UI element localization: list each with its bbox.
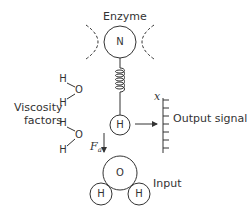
enzyme-sensor-diagram: Enzyme N H O H H O H Viscosity factors H… — [0, 0, 251, 221]
input-label: Input — [153, 178, 181, 189]
force-symbol: F — [90, 140, 98, 153]
enzyme-label: Enzyme — [103, 11, 147, 22]
water1-h-top: H — [59, 74, 67, 84]
viscosity-label: Viscosity — [14, 102, 62, 113]
input-h-right-atom: H — [135, 189, 143, 199]
factors-label: factors — [24, 115, 62, 126]
sensor-h-atom: H — [116, 120, 124, 130]
water2-o: O — [75, 130, 83, 140]
scale-x-label: x — [154, 91, 160, 102]
output-scale-ruler — [163, 98, 169, 153]
water1-o: O — [75, 85, 83, 95]
water2-h-bottom: H — [59, 145, 67, 155]
force-subscript: a — [98, 146, 102, 154]
force-label: Fa — [90, 141, 102, 154]
enzyme-left-arc — [86, 25, 98, 59]
input-h-left-atom: H — [97, 189, 105, 199]
enzyme-n-atom: N — [116, 37, 123, 47]
output-signal-label: Output signal — [173, 113, 247, 124]
enzyme-right-arc — [142, 25, 154, 59]
input-o-atom: O — [116, 168, 124, 178]
spring-icon — [116, 68, 125, 92]
